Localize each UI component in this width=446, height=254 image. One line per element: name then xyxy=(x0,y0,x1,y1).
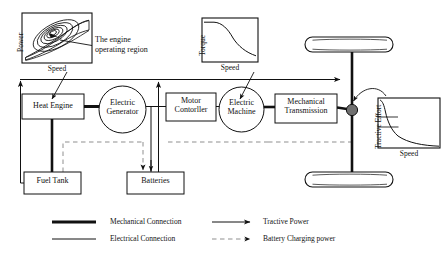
engine-operating-region-annotation: The engine operating region xyxy=(95,35,148,55)
wheel-bottom xyxy=(305,172,393,187)
legend-label-mechanical-connection: Mechanical Connection xyxy=(110,217,181,226)
chart-engine-map xyxy=(22,13,92,63)
engine-region-line-1: The engine xyxy=(95,35,148,45)
label-electric-machine-line-2: Machine xyxy=(219,108,264,117)
torque-xlabel: Speed xyxy=(208,63,252,72)
label-motor-controller-line-2: Contorller xyxy=(166,106,216,115)
chart-motor-torque xyxy=(202,18,258,62)
diagram-canvas: Power Speed Torque Speed Tractive Effort… xyxy=(0,0,446,254)
engine-map-xlabel: Speed xyxy=(34,64,80,73)
label-fuel-tank: Fuel Tank xyxy=(24,177,81,186)
label-electric-generator: Electric Generator xyxy=(99,99,146,117)
engine-map-ylabel: Power xyxy=(16,33,25,52)
label-motor-controller: Motor Contorller xyxy=(166,97,216,115)
legend-label-tractive-power: Tractive Power xyxy=(263,217,309,226)
chart-tractive-effort xyxy=(378,98,440,148)
wheel-top xyxy=(305,37,393,52)
legend-label-electrical-connection: Electrical Connection xyxy=(110,234,175,243)
tractive-effort-xlabel: Speed xyxy=(388,149,430,158)
label-mechanical-transmission: Mechanical Transmission xyxy=(275,98,337,116)
label-batteries: Batteries xyxy=(127,177,184,186)
engine-region-line-2: operating region xyxy=(95,45,148,55)
legend-label-battery-charging: Battery Charging power xyxy=(263,234,335,243)
label-heat-engine: Heat Engine xyxy=(22,102,84,111)
label-electric-machine: Electric Machine xyxy=(219,99,264,117)
torque-ylabel: Torque xyxy=(198,35,207,56)
tractive-effort-ylabel: Tractive Effort xyxy=(374,105,383,149)
label-mechanical-transmission-line-2: Transmission xyxy=(275,107,337,116)
label-electric-generator-line-2: Generator xyxy=(99,108,146,117)
